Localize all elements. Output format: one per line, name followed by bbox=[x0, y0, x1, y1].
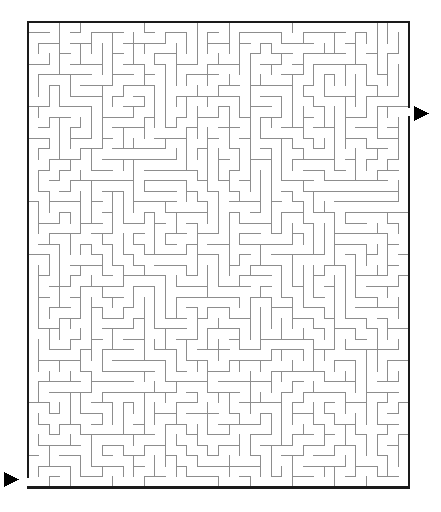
page-background bbox=[0, 0, 441, 512]
maze-graphic bbox=[0, 0, 441, 512]
maze-canvas bbox=[0, 0, 441, 512]
maze-puzzle-page bbox=[0, 0, 441, 512]
